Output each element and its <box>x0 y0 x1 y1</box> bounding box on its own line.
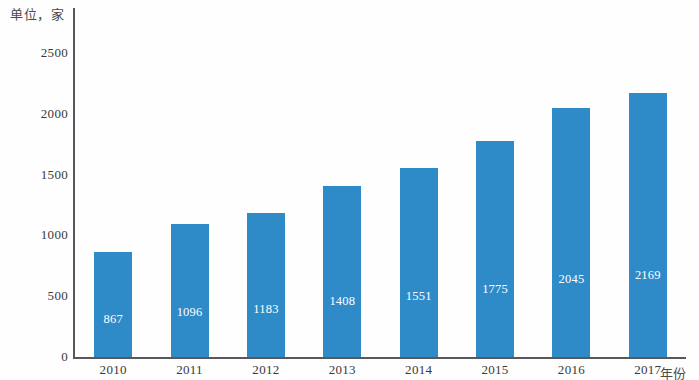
x-axis-tick-2010: 2010 <box>83 362 143 378</box>
bar-2017[interactable] <box>629 93 667 357</box>
x-axis-title: 年份 <box>660 363 686 380</box>
y-axis-tick-2500: 2500 <box>6 45 68 61</box>
y-axis-tick-0: 0 <box>6 349 68 365</box>
y-axis-tick-2000: 2000 <box>6 106 68 122</box>
x-axis-tick-labels: 20102011201220132014201520162017 <box>75 362 686 380</box>
bar-slot: 1183 <box>247 8 285 357</box>
bar-slot: 1775 <box>476 8 514 357</box>
bar-slot: 1551 <box>400 8 438 357</box>
x-axis-tick-2014: 2014 <box>389 362 449 378</box>
y-axis-tick-1500: 1500 <box>6 167 68 183</box>
bar-2014[interactable] <box>400 168 438 357</box>
bar-slot: 2169 <box>629 8 667 357</box>
bar-slot: 2045 <box>552 8 590 357</box>
bar-slot: 1408 <box>323 8 361 357</box>
x-axis-tick-2013: 2013 <box>312 362 372 378</box>
bar-2015[interactable] <box>476 141 514 357</box>
x-axis-tick-2016: 2016 <box>541 362 601 378</box>
y-axis-tick-1000: 1000 <box>6 227 68 243</box>
bar-slot: 867 <box>94 8 132 357</box>
bar-chart: 单位，家 05001000150020002500 86710961183140… <box>0 0 699 380</box>
y-axis-tick-500: 500 <box>6 288 68 304</box>
y-axis-tick-labels: 05001000150020002500 <box>0 0 68 380</box>
x-axis-tick-2015: 2015 <box>465 362 525 378</box>
x-axis-tick-2011: 2011 <box>160 362 220 378</box>
bar-2011[interactable] <box>171 224 209 357</box>
bar-2010[interactable] <box>94 252 132 357</box>
x-axis-tick-2012: 2012 <box>236 362 296 378</box>
x-axis-line <box>73 357 686 359</box>
bar-2013[interactable] <box>323 186 361 357</box>
bar-2016[interactable] <box>552 108 590 357</box>
plot-area: 8671096118314081551177520452169 <box>75 8 686 357</box>
bar-slot: 1096 <box>171 8 209 357</box>
bar-2012[interactable] <box>247 213 285 357</box>
